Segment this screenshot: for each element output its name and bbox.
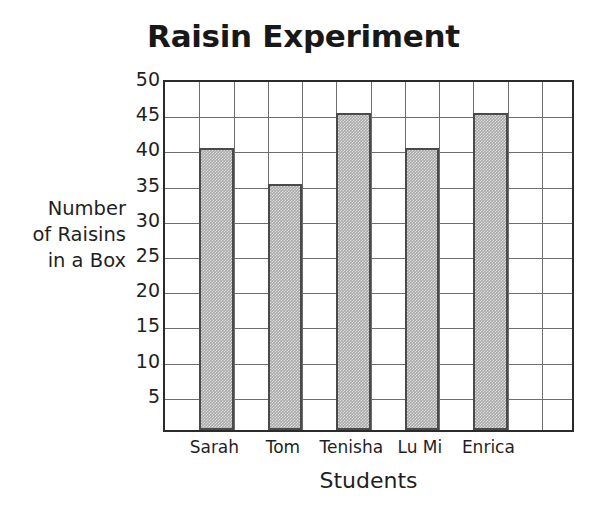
chart-title: Raisin Experiment [0,18,607,54]
y-tick-label: 50 [100,70,160,89]
y-tick-label: 5 [100,387,160,406]
bar [199,148,233,430]
x-tick-label: Enrica [433,438,543,457]
bar-chart: Raisin Experiment Number of Raisins in a… [0,0,607,508]
bar [405,148,439,430]
y-tick-label: 15 [100,316,160,335]
bar [336,113,370,430]
y-tick-label: 25 [100,246,160,265]
plot-area [163,80,574,432]
bars-group [165,82,572,430]
x-axis-title: Students [163,468,574,493]
bar [268,184,302,430]
y-tick-label: 20 [100,281,160,300]
y-tick-label: 40 [100,140,160,159]
y-tick-label: 10 [100,352,160,371]
y-tick-label: 35 [100,176,160,195]
bar [473,113,507,430]
y-tick-label: 30 [100,211,160,230]
y-tick-label: 45 [100,105,160,124]
